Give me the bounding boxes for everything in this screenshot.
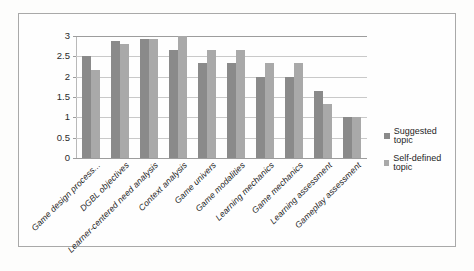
- bar: [352, 117, 361, 158]
- bar: [111, 41, 120, 158]
- y-axis-tick-mark: [73, 158, 76, 159]
- y-axis-tick-label: 3: [28, 31, 70, 41]
- legend-label: Self-defined topic: [393, 154, 455, 172]
- legend-item-self-defined-topic: Self-defined topic: [384, 154, 455, 172]
- bar: [285, 77, 294, 158]
- bar-group: [280, 36, 309, 158]
- bar-group: [76, 36, 105, 158]
- bar-group: [105, 36, 134, 158]
- bar-group: [251, 36, 280, 158]
- y-axis-tick-label: 0: [28, 153, 70, 163]
- y-axis-tick-label: 2.5: [28, 51, 70, 61]
- y-axis-tick-label: 1: [28, 112, 70, 122]
- plot-area: [76, 36, 367, 158]
- bar: [256, 77, 265, 158]
- bar: [149, 39, 158, 158]
- bar-group: [338, 36, 367, 158]
- bar-group: [221, 36, 250, 158]
- legend-label: Suggested topic: [394, 127, 455, 145]
- chart-legend: Suggested topic Self-defined topic: [384, 127, 455, 172]
- gridline: [76, 158, 367, 159]
- bar: [91, 70, 100, 158]
- chart-screenshot: 32.521.510.50 Game design process...DGBL…: [0, 0, 474, 271]
- legend-swatch-icon: [384, 160, 389, 166]
- bar-group: [309, 36, 338, 158]
- bar: [198, 63, 207, 158]
- legend-item-suggested-topic: Suggested topic: [384, 127, 455, 145]
- y-axis-tick-label: 1.5: [28, 92, 70, 102]
- bar: [140, 39, 149, 158]
- y-axis-tick-label: 2: [28, 72, 70, 82]
- bar-group: [134, 36, 163, 158]
- bar: [169, 50, 178, 158]
- bar: [323, 104, 332, 158]
- bar-group: [192, 36, 221, 158]
- bar: [314, 91, 323, 159]
- x-axis-category-label: Game mechanics: [250, 160, 305, 215]
- bar: [207, 50, 216, 158]
- bar: [294, 63, 303, 158]
- bar: [343, 117, 352, 158]
- y-axis-tick-label: 0.5: [28, 133, 70, 143]
- legend-swatch-icon: [384, 133, 390, 139]
- bar: [265, 63, 274, 158]
- bar: [236, 50, 245, 158]
- bar-groups: [76, 36, 367, 158]
- bar: [82, 56, 91, 158]
- bar: [227, 63, 236, 158]
- bar-group: [163, 36, 192, 158]
- chart-frame: 32.521.510.50 Game design process...DGBL…: [18, 13, 456, 247]
- bar: [120, 44, 129, 158]
- bar: [178, 36, 187, 158]
